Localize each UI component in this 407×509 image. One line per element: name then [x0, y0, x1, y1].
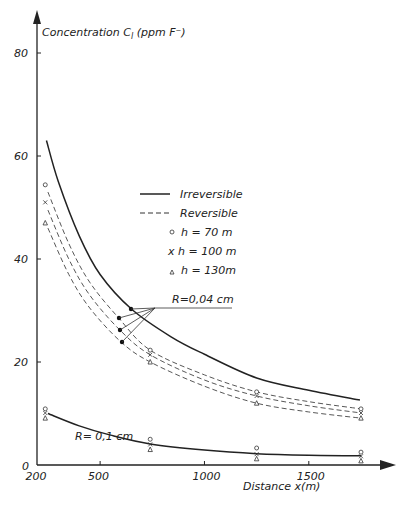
data-markers — [43, 183, 363, 463]
axis-ticks: 2005001000150020406080 — [14, 47, 325, 483]
triangle-marker-icon — [254, 456, 258, 461]
legend-reversible: Reversible — [180, 207, 238, 220]
x-marker-icon — [43, 200, 47, 204]
origin-label: 0 — [22, 460, 29, 473]
triangle-marker-icon — [148, 447, 152, 452]
circle-marker-icon — [43, 183, 47, 187]
x-tick-label: 1000 — [192, 470, 220, 483]
y-tick-label: 40 — [14, 253, 28, 266]
x-marker-icon — [148, 353, 152, 357]
annotation-r004 — [119, 308, 232, 342]
circle-marker-icon — [359, 407, 363, 411]
circle-marker-icon — [148, 437, 152, 441]
y-axis-arrow-icon — [33, 10, 41, 24]
circle-marker-icon — [255, 446, 259, 450]
triangle-marker-icon — [254, 401, 258, 406]
legend-h100: x h = 100 m — [167, 245, 236, 258]
annotation-r004-label: R=0,04 cm — [172, 293, 234, 306]
legend: Irreversible Reversible h = 70 m x h = 1… — [140, 188, 243, 277]
legend-h130: h = 130m — [181, 264, 236, 277]
circle-marker-icon — [255, 390, 259, 394]
x-axis-arrow-icon — [380, 460, 396, 470]
y-tick-label: 60 — [14, 150, 28, 163]
triangle-marker-icon — [359, 458, 363, 463]
circle-marker-icon — [43, 407, 47, 411]
x-marker-icon — [359, 411, 363, 415]
x-marker-icon — [43, 411, 47, 415]
axes — [33, 10, 396, 470]
circle-marker-icon — [148, 348, 152, 352]
triangle-marker-icon — [43, 220, 47, 225]
legend-triangle-marker-icon — [170, 270, 174, 274]
triangle-marker-icon — [43, 416, 47, 421]
y-axis-title: Concentration Cl (ppm F⁻) — [42, 26, 186, 41]
annotation-r01-label: R= 0,1 cm — [75, 430, 133, 443]
x-tick-label: 500 — [88, 470, 109, 483]
x-axis-title: Distance x(m) — [243, 480, 320, 493]
legend-h70: h = 70 m — [181, 226, 232, 239]
y-tick-label: 80 — [14, 47, 28, 60]
circle-marker-icon — [359, 450, 363, 454]
legend-circle-marker-icon — [170, 230, 174, 234]
legend-irreversible: Irreversible — [180, 188, 243, 201]
triangle-marker-icon — [359, 416, 363, 421]
y-tick-label: 20 — [14, 356, 28, 369]
series-line — [48, 210, 361, 413]
concentration-distance-chart: 2005001000150020406080 Concentration Cl … — [0, 0, 407, 509]
triangle-marker-icon — [148, 360, 152, 365]
